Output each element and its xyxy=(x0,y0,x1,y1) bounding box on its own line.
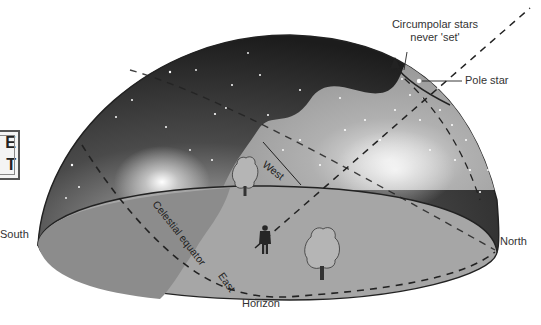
section-badge: E T xyxy=(0,130,20,180)
circumpolar-label-line2: never 'set' xyxy=(380,31,490,44)
celestial-sphere-diagram: E T Circumpolar stars never 'set' Pole s… xyxy=(0,0,541,325)
north-label: North xyxy=(500,235,527,247)
pole-star-icon xyxy=(417,79,421,83)
pole-star-label: Pole star xyxy=(465,74,508,86)
circumpolar-label-line1: Circumpolar stars xyxy=(380,18,490,31)
south-label: South xyxy=(0,228,29,240)
horizon-label: Horizon xyxy=(242,297,280,309)
badge-border xyxy=(0,135,15,175)
circumpolar-label: Circumpolar stars never 'set' xyxy=(380,18,490,44)
